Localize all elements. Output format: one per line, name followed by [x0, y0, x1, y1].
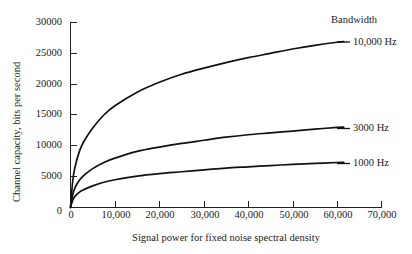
- y-tick-label-25000: 25000: [16, 48, 62, 59]
- x-axis-ticks: [116, 201, 382, 208]
- series-line-1000hz: [71, 162, 344, 207]
- x-tick-label-70000: 70,000: [354, 210, 410, 221]
- y-axis-ticks: [71, 23, 77, 177]
- y-tick-label-20000: 20000: [16, 79, 62, 90]
- x-axis-title: Signal power for fixed noise spectral de…: [76, 233, 376, 244]
- chart-figure: 30000 25000 20000 15000 10000 5000 0 0 1…: [0, 0, 412, 254]
- series-label-10000hz: 10,000 Hz: [353, 37, 397, 48]
- y-tick-label-5000: 5000: [16, 171, 62, 182]
- series-label-1000hz: 1000 Hz: [353, 158, 389, 169]
- series-line-10000hz: [71, 42, 344, 208]
- y-tick-label-15000: 15000: [16, 109, 62, 120]
- y-tick-label-30000: 30000: [16, 17, 62, 28]
- series-line-3000hz: [71, 127, 344, 207]
- y-axis-title: Channel capacity, bits per second: [12, 62, 23, 202]
- series-label-3000hz: 3000 Hz: [353, 123, 389, 134]
- legend-title: Bandwidth: [331, 15, 377, 26]
- y-tick-label-10000: 10000: [16, 140, 62, 151]
